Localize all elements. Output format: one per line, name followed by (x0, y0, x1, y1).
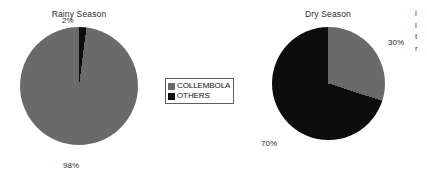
chart-title-dry-season: Dry Season (268, 9, 388, 19)
cropped-marginal-text: lltr (415, 8, 427, 54)
legend-label-collembola: COLLEMBOLA (177, 81, 230, 91)
slice-label-rainy-others: 98% (63, 161, 79, 170)
pie-chart-figure: Rainy Season 2% 98% COLLEMBOLA OTHERS Dr… (0, 0, 427, 180)
legend-swatch-black-icon (168, 93, 175, 100)
chart-title-rainy-season: Rainy Season (17, 9, 141, 19)
slice-label-dry-others: 70% (261, 139, 277, 148)
legend-swatch-gray-icon (168, 83, 175, 90)
pie-chart-dry-season (272, 27, 385, 140)
pie-chart-rainy-season (20, 27, 138, 145)
legend: COLLEMBOLA OTHERS (165, 78, 234, 104)
legend-label-others: OTHERS (177, 91, 210, 101)
legend-item-collembola: COLLEMBOLA (168, 81, 230, 91)
slice-label-rainy-collembola: 2% (62, 16, 74, 25)
slice-label-dry-collembola: 30% (388, 38, 404, 47)
legend-item-others: OTHERS (168, 91, 230, 101)
